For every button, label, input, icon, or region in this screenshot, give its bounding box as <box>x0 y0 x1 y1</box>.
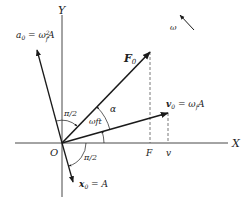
projection-v-label: v <box>166 148 171 158</box>
angle-pi2-lower: π/2 <box>83 153 97 162</box>
arc-pi2-upper <box>56 120 77 126</box>
vector-F0 <box>62 52 150 143</box>
x-axis-label: X <box>231 137 241 150</box>
y-axis-label: Y <box>58 4 67 17</box>
rotation-arrow <box>180 15 194 30</box>
phasor-diagram: X Y O F v F0 v0 = ωfA a0 = ω2fA x0 = A π… <box>0 0 246 207</box>
vector-v0 <box>62 113 168 143</box>
angle-pi2-upper: π/2 <box>63 109 77 118</box>
label-x0: x0 = A <box>78 179 108 190</box>
origin-label: O <box>50 147 58 158</box>
angle-alpha: α <box>110 104 116 114</box>
angle-wft: ωft <box>89 117 102 126</box>
vector-a0 <box>37 50 62 143</box>
label-F0: F0 <box>123 52 137 66</box>
projection-F-label: F <box>145 148 153 158</box>
rotation-omega-label: ω <box>170 23 177 32</box>
label-a0: a0 = ω2fA <box>16 29 55 43</box>
arc-wft <box>102 131 104 143</box>
vector-x0 <box>62 143 73 182</box>
label-v0: v0 = ωfA <box>166 99 205 111</box>
